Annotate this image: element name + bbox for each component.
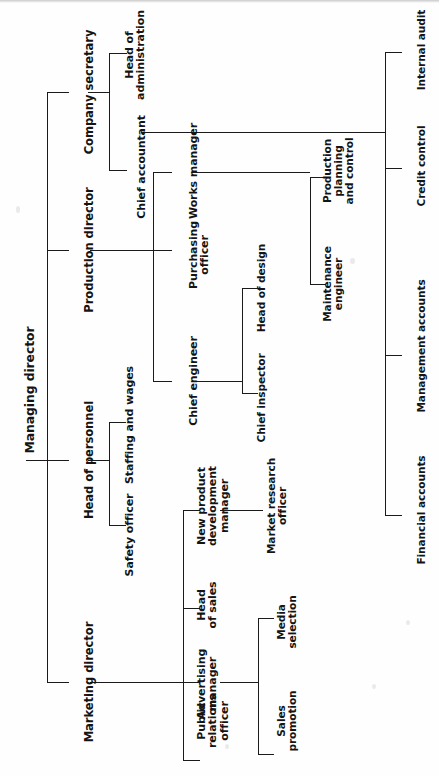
node-new-product-development-manager[interactable]: New product development manager: [196, 446, 230, 566]
node-financial-accounts[interactable]: Financial accounts: [416, 430, 427, 590]
node-head-of-personnel[interactable]: Head of personnel: [84, 370, 96, 550]
node-internal-audit[interactable]: Internal audit: [416, 0, 427, 110]
node-management-accounts[interactable]: Management accounts: [416, 256, 427, 436]
connector-to-marketing-director: [47, 682, 69, 683]
connector-to-production-director: [47, 250, 69, 251]
scan-speck: [350, 258, 355, 264]
org-chart: Managing director Company secretary Prod…: [0, 0, 439, 776]
connector-production-director-spine: [153, 172, 154, 381]
connector-to-internal-audit: [385, 52, 402, 53]
node-credit-control[interactable]: Credit control: [416, 106, 427, 226]
node-media-selection[interactable]: Media selection: [276, 572, 298, 672]
node-chief-accountant[interactable]: Chief accountant: [136, 92, 147, 242]
node-public-relations-officer[interactable]: Public relations officer: [196, 666, 230, 776]
scan-edge-artifact: [0, 0, 439, 3]
scan-speck: [225, 744, 229, 749]
scan-speck: [406, 620, 410, 625]
node-managing-director[interactable]: Managing director: [24, 310, 37, 470]
scan-speck: [16, 206, 20, 213]
connector-company-secretary-spine: [109, 53, 110, 170]
connector-production-director-stem: [90, 250, 153, 251]
connector-to-financial-accounts: [385, 515, 402, 516]
scan-speck: [372, 684, 376, 689]
node-chief-engineer[interactable]: Chief engineer: [188, 316, 199, 446]
connector-to-credit-control: [385, 168, 402, 169]
node-sales-promotion[interactable]: Sales promotion: [276, 666, 298, 776]
node-company-secretary[interactable]: Company secretary: [84, 2, 96, 182]
connector-works-manager-spine: [310, 177, 311, 284]
node-production-planning-and-control[interactable]: Production planning and control: [322, 116, 355, 226]
connector-marketing-director-stem: [90, 682, 183, 683]
connector-head-of-personnel-spine: [109, 422, 110, 525]
connector-root-spine: [47, 92, 48, 683]
connector-to-chief-accountant: [109, 170, 127, 171]
node-head-of-design[interactable]: Head of design: [256, 228, 267, 348]
node-production-director[interactable]: Production director: [84, 160, 96, 340]
node-maintenance-engineer[interactable]: Maintenance engineer: [322, 224, 344, 344]
connector-to-works-manager: [153, 172, 172, 173]
node-market-research-officer[interactable]: Market research officer: [266, 446, 288, 566]
connector-advertising-manager-spine: [258, 618, 259, 754]
connector-chief-accountant-spine: [385, 52, 386, 515]
node-safety-officer[interactable]: Safety officer: [124, 470, 135, 600]
connector-to-chief-engineer: [153, 381, 172, 382]
node-chief-inspector[interactable]: Chief inspector: [256, 338, 267, 458]
connector-to-management-accounts: [385, 355, 402, 356]
connector-to-head-of-personnel: [47, 460, 69, 461]
node-marketing-director[interactable]: Marketing director: [84, 592, 96, 772]
connector-to-company-secretary: [47, 92, 69, 93]
connector-to-sales-promotion: [258, 754, 274, 755]
connector-works-manager-stem: [192, 172, 310, 173]
node-purchasing-officer[interactable]: Purchasing officer: [188, 200, 211, 310]
connector-chief-engineer-spine: [242, 288, 243, 393]
connector-marketing-director-spine: [183, 510, 184, 760]
connector-to-purchasing-officer: [153, 250, 172, 251]
connector-to-media-selection: [258, 618, 274, 619]
